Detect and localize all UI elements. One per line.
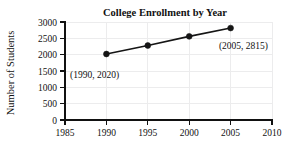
x-tick-label: 1985 [56,128,75,138]
chart-title: College Enrollment by Year [103,7,227,18]
y-tick-label: 1000 [38,83,57,93]
x-tick-label: 2005 [221,128,240,138]
y-tick-label: 0 [52,116,57,126]
chart-figure: College Enrollment by Year Number of Stu… [0,0,293,147]
y-tick-label: 2000 [38,50,57,60]
x-tick-label: 1990 [97,128,116,138]
y-tick-label: 500 [43,99,58,109]
x-tick-label: 2010 [263,128,282,138]
x-tick-label: 1995 [138,128,157,138]
data-point-marker [145,43,151,49]
data-point-annotation-1990: (1990, 2020) [70,70,119,81]
data-point-marker [104,51,110,57]
data-point-marker [228,25,234,31]
y-tick-label: 1500 [38,67,57,77]
data-point-marker [186,33,192,39]
chart-canvas: College Enrollment by Year Number of Stu… [0,0,293,147]
y-axis-title: Number of Students [5,31,16,116]
y-tick-label: 3000 [38,18,57,28]
data-point-annotation-2005: (2005, 2815) [219,41,268,52]
y-tick-label: 2500 [38,34,57,44]
x-tick-label: 2000 [180,128,199,138]
